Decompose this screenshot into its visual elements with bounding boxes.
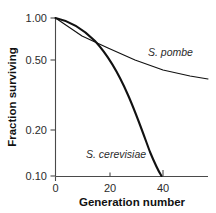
- survival-curve-figure: 1.00 0.50 0.20 0.10 0 20 40 S. pombe S. …: [0, 0, 216, 213]
- y-tick-label-3: 0.20: [26, 124, 47, 136]
- y-tick-label-2: 0.50: [26, 54, 47, 66]
- y-tick-label-4: 0.10: [26, 170, 47, 182]
- x-tick-label-20: 20: [104, 182, 116, 194]
- series-label-s-cerevisiae: S. cerevisiae: [86, 148, 146, 160]
- x-tick-label-0: 0: [52, 182, 58, 194]
- y-tick-label-1: 1.00: [26, 12, 47, 24]
- y-axis-title: Fraction surviving: [6, 47, 18, 147]
- series-label-s-pombe: S. pombe: [148, 46, 193, 58]
- x-tick-label-40: 40: [157, 182, 169, 194]
- x-axis-title: Generation number: [79, 196, 186, 208]
- chart-svg: 1.00 0.50 0.20 0.10 0 20 40 S. pombe S. …: [0, 0, 216, 213]
